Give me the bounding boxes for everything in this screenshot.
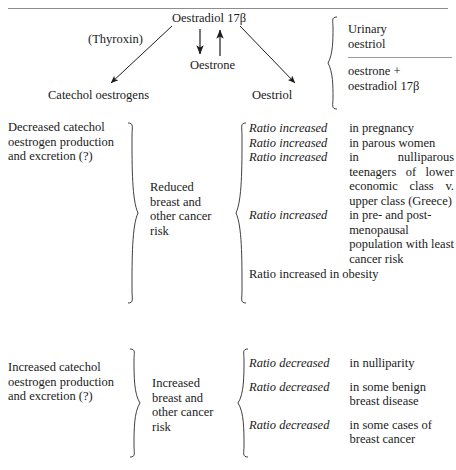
ratio-label: Ratio increased [249, 150, 349, 208]
urinary-ratio-fraction: Urinary oestriol oestrone + oestradiol 1… [348, 22, 452, 93]
fraction-denominator-line-2: oestradiol 17β [348, 79, 452, 94]
section-1-cause-brace [126, 122, 142, 304]
section-1-ratio-brace [232, 122, 248, 304]
ratio-description: in some benign breast disease [350, 380, 454, 409]
table-row: Ratio decreased in nulliparity [249, 356, 454, 371]
ratio-description: in parous women [349, 136, 454, 151]
section-1-ratio-table: Ratio increased in pregnancy Ratio incre… [249, 121, 454, 282]
fraction-divider-line [348, 57, 452, 58]
ratio-description: in nulliparous teenagers of lower econom… [349, 150, 454, 208]
ratio-label: Ratio increased [249, 136, 349, 151]
section-2-ratio-table: Ratio decreased in nulliparity Ratio dec… [249, 356, 454, 447]
section-1-cause-text: Decreased catechol oestrogen production … [8, 120, 124, 164]
table-row: Ratio increased in nulliparous teenagers… [249, 150, 454, 208]
pathway-output-brace [324, 16, 342, 110]
ratio-label: Ratio decreased [249, 380, 350, 409]
section-2-outcome-text: Increased breast and other cancer risk [152, 376, 228, 434]
section-2-cause-brace [128, 348, 144, 458]
table-row: Ratio increased in pre- and post-menopau… [249, 208, 454, 266]
oestrogen-metabolism-figure: Oestradiol 17β (Thyroxin) Oestrone Catec… [0, 0, 456, 470]
ratio-description: in pregnancy [349, 121, 454, 136]
pathway-node-oestriol: Oestriol [252, 88, 292, 102]
section-1-outcome-text: Reduced breast and other cancer risk [150, 180, 220, 238]
row-spacer [249, 409, 454, 418]
fraction-denominator-line-1: oestrone + [348, 64, 452, 79]
table-row: Ratio decreased in some benign breast di… [249, 380, 454, 409]
section-2-ratio-brace [234, 348, 250, 458]
ratio-description: in nulliparity [350, 356, 454, 371]
ratio-plain-statement: Ratio increased in obesity [249, 266, 454, 282]
row-spacer [249, 371, 454, 380]
ratio-description: in pre- and post-menopausal population w… [349, 208, 454, 266]
table-row: Ratio increased in pregnancy [249, 121, 454, 136]
pathway-node-oestrone: Oestrone [190, 58, 235, 72]
section-1-ratio-list: Ratio increased in pregnancy Ratio incre… [249, 121, 454, 282]
table-row: Ratio increased in obesity [249, 266, 454, 282]
fraction-numerator-line-1: Urinary [348, 22, 452, 37]
ratio-label: Ratio increased [249, 121, 349, 136]
pathway-node-oestradiol: Oestradiol 17β [172, 11, 246, 25]
pathway-node-catechol-oestrogens: Catechol oestrogens [48, 88, 149, 102]
fraction-denominator: oestrone + oestradiol 17β [348, 64, 452, 93]
ratio-label: Ratio decreased [249, 356, 350, 371]
fraction-numerator-line-2: oestriol [348, 37, 452, 52]
fraction-numerator: Urinary oestriol [348, 22, 452, 57]
section-2-ratio-list: Ratio decreased in nulliparity Ratio dec… [249, 356, 454, 447]
table-row: Ratio increased in parous women [249, 136, 454, 151]
section-2-cause-text: Increased catechol oestrogen production … [8, 360, 126, 404]
ratio-description: in some cases of breast cancer [350, 418, 454, 447]
ratio-label: Ratio increased [249, 208, 349, 266]
pathway-node-thyroxin: (Thyroxin) [88, 32, 143, 46]
table-row: Ratio decreased in some cases of breast … [249, 418, 454, 447]
ratio-label: Ratio decreased [249, 418, 350, 447]
